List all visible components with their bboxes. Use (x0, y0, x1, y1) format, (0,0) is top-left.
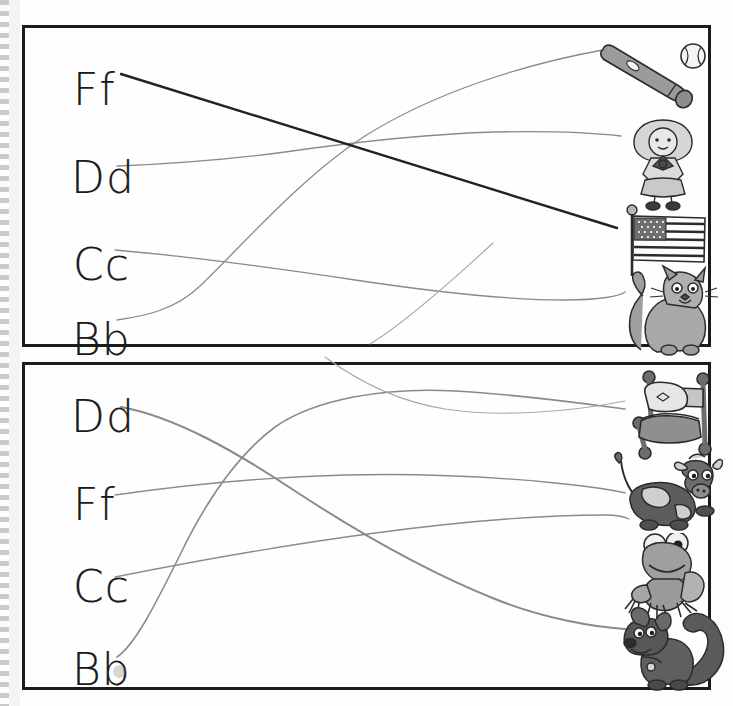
bottom-panel: Dd Ff Cc Bb (22, 362, 711, 690)
letter-dd-bottom[interactable]: Dd (71, 395, 135, 439)
bat-ball-icon (585, 36, 717, 124)
cow-icon (609, 449, 723, 543)
letter-ff-top[interactable]: Ff (73, 68, 116, 112)
cow-image[interactable] (609, 449, 723, 543)
baseball-bat-and-ball-image[interactable] (585, 36, 717, 124)
pencil-smudge (113, 665, 126, 678)
line-ff-to-cow (115, 474, 625, 495)
worksheet-page: Ff Dd Cc Bb (0, 0, 733, 706)
doll-icon (621, 116, 705, 212)
cat-image[interactable] (617, 264, 725, 356)
scan-edge-artifact (0, 0, 9, 706)
line-cc-to-cat (115, 250, 625, 300)
bed-image[interactable] (625, 367, 725, 461)
cat-icon (617, 264, 725, 356)
line-ff-to-flag (121, 74, 617, 228)
letter-ff-bottom[interactable]: Ff (73, 483, 116, 527)
letter-dd-top[interactable]: Dd (71, 156, 135, 200)
squirrel-icon (617, 601, 729, 693)
stray-pencil-stroke-bottom (325, 357, 625, 413)
bed-icon (625, 367, 725, 461)
top-panel: Ff Dd Cc Bb (22, 25, 711, 347)
line-bb-to-bed (117, 390, 625, 657)
line-dd-to-doll (117, 132, 621, 166)
letter-cc-top[interactable]: Cc (73, 243, 130, 287)
scan-margin-artifact (9, 0, 20, 706)
letter-bb-top[interactable]: Bb (72, 318, 131, 362)
doll-image[interactable] (621, 116, 705, 212)
letter-cc-bottom[interactable]: Cc (73, 565, 130, 609)
line-bb-to-bat (117, 50, 603, 320)
squirrel-image[interactable] (617, 601, 729, 693)
stray-pencil-stroke-top (370, 243, 493, 344)
line-cc-to-frog (115, 515, 629, 577)
line-dd-to-squirrel (121, 407, 625, 629)
